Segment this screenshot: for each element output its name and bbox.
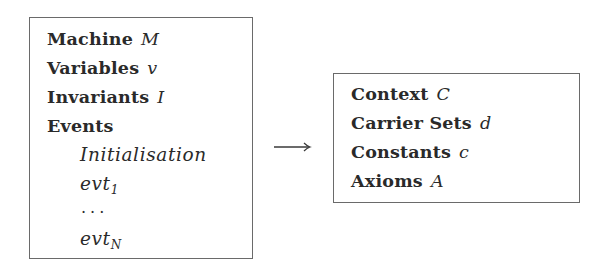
event-evt-1-base: evt (80, 173, 111, 194)
machine-name: M (141, 29, 159, 49)
variables-keyword: Variables (47, 58, 139, 78)
axioms-row: AxiomsA (351, 171, 444, 191)
event-initialisation: Initialisation (80, 145, 207, 165)
machine-keyword: Machine (47, 29, 133, 49)
machine-title-row: MachineM (47, 29, 159, 49)
events-keyword: Events (47, 116, 114, 136)
context-keyword: Context (351, 84, 428, 104)
event-evt-n: evtN (80, 229, 122, 255)
events-row: Events (47, 116, 114, 136)
carrier-sets-row: Carrier Setsd (351, 113, 491, 133)
event-evt-1-subscript: 1 (111, 183, 119, 197)
invariants-row: InvariantsI (47, 87, 164, 107)
variables-name: v (147, 58, 157, 78)
constants-name: c (459, 142, 469, 162)
axioms-name: A (431, 171, 444, 191)
carrier-sets-name: d (480, 113, 491, 133)
sees-arrow-icon (274, 140, 312, 154)
variables-row: Variablesv (47, 58, 157, 78)
context-name: C (436, 84, 449, 104)
event-evt-n-base: evt (80, 228, 111, 249)
invariants-name: I (157, 87, 164, 107)
constants-keyword: Constants (351, 142, 451, 162)
constants-row: Constantsc (351, 142, 469, 162)
event-evt-n-subscript: N (111, 238, 122, 252)
context-title-row: ContextC (351, 84, 450, 104)
invariants-keyword: Invariants (47, 87, 149, 107)
context-box: ContextC Carrier Setsd Constantsc Axioms… (333, 73, 580, 203)
carrier-sets-keyword: Carrier Sets (351, 113, 472, 133)
event-ellipsis: ... (81, 198, 108, 218)
event-evt-1: evt1 (80, 174, 119, 200)
axioms-keyword: Axioms (351, 171, 423, 191)
machine-box: MachineM Variablesv InvariantsI Events I… (29, 17, 253, 259)
